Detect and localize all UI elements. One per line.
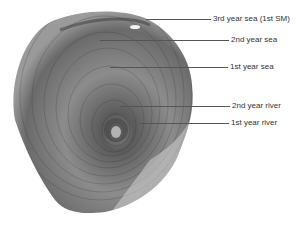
label-1st-year-sea: 1st year sea	[230, 62, 274, 72]
label-2nd-year-river: 2nd year river	[232, 101, 281, 111]
leader-line	[140, 123, 229, 124]
label-1st-year-river: 1st year river	[231, 118, 277, 128]
label-3rd-year-sea: 3rd year sea (1st SM)	[213, 14, 290, 24]
leader-line	[110, 67, 228, 68]
leader-line	[146, 19, 211, 20]
label-2nd-year-sea: 2nd year sea	[231, 35, 277, 45]
leader-line	[100, 40, 229, 41]
leader-line	[120, 106, 230, 107]
fish-scale-image	[0, 0, 200, 227]
